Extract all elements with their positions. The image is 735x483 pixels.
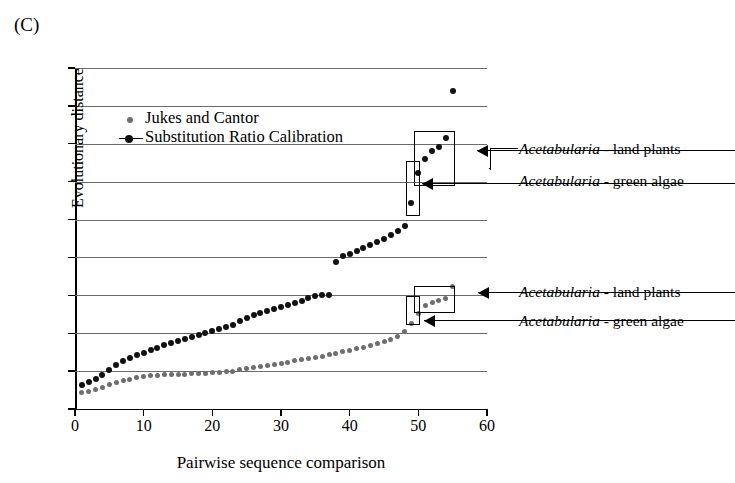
x-tick-label: 20	[192, 418, 232, 434]
data-point	[237, 318, 243, 324]
data-point	[272, 362, 277, 367]
arrow-upper-land-plants-head	[477, 145, 488, 157]
data-point	[450, 88, 456, 94]
data-point	[86, 389, 91, 394]
data-point	[141, 374, 146, 379]
data-point	[216, 326, 222, 332]
x-tick	[280, 409, 281, 416]
legend-label: Jukes and Cantor	[145, 108, 259, 127]
plot-area: 00.10.20.30.40.50.60.70.80.9 01020304050…	[75, 68, 487, 410]
data-point	[326, 292, 332, 298]
x-tick	[418, 409, 419, 416]
data-point	[279, 361, 284, 366]
y-axis-title: Evolutionary distance	[69, 68, 87, 208]
data-point	[134, 352, 140, 358]
annotation-upper-green-algae: Acetabularia - green algae	[519, 173, 684, 189]
x-tick	[212, 409, 213, 416]
arrow-lower-land-plants-head	[478, 287, 489, 299]
x-tick	[349, 409, 350, 416]
data-point	[168, 340, 174, 346]
data-point	[258, 364, 263, 369]
data-point	[382, 339, 387, 344]
data-point	[230, 369, 235, 374]
data-point	[203, 371, 208, 376]
data-point	[148, 347, 154, 353]
data-point	[202, 330, 208, 336]
data-point	[292, 358, 297, 363]
x-tick-label: 30	[261, 418, 301, 434]
data-point	[374, 239, 380, 245]
data-point	[244, 315, 250, 321]
data-point	[93, 376, 99, 382]
legend-marker-gray-dot-icon	[127, 117, 133, 123]
y-tick	[68, 333, 75, 334]
data-point	[347, 251, 353, 257]
data-point	[182, 372, 187, 377]
data-point	[162, 372, 167, 377]
data-point	[354, 248, 360, 254]
data-point	[327, 352, 332, 357]
data-point	[361, 345, 366, 350]
data-point	[305, 295, 311, 301]
data-point	[107, 382, 112, 387]
data-point	[306, 356, 311, 361]
data-point	[395, 334, 400, 339]
annotation-upper-land-plants: Acetabularia - land plants	[519, 141, 680, 157]
x-tick-label: 0	[55, 418, 95, 434]
data-point	[388, 232, 394, 238]
data-point	[333, 351, 338, 356]
data-point	[368, 343, 373, 348]
data-point	[114, 380, 119, 385]
data-point	[381, 236, 387, 242]
data-point	[99, 372, 105, 378]
data-point	[141, 350, 147, 356]
data-point	[161, 342, 167, 348]
data-point	[223, 324, 229, 330]
annotation-genus: Acetabularia	[519, 140, 600, 157]
data-point	[354, 346, 359, 351]
gridline	[75, 371, 487, 372]
data-point	[155, 373, 160, 378]
x-axis-title: Pairwise sequence comparison	[75, 453, 487, 473]
arrow-lower-land-plants-line	[478, 292, 735, 293]
data-point	[333, 259, 339, 265]
x-tick-label: 60	[467, 418, 507, 434]
annotation-rest: - green algae	[600, 172, 684, 189]
data-point	[278, 304, 284, 310]
data-point	[264, 308, 270, 314]
gridline	[75, 257, 487, 258]
data-point	[93, 387, 98, 392]
gridline	[75, 333, 487, 334]
data-point	[319, 292, 325, 298]
data-point	[375, 341, 380, 346]
data-point	[154, 345, 160, 351]
arrow-lower-green-algae-head	[424, 315, 435, 327]
data-point	[285, 302, 291, 308]
x-tick	[486, 409, 487, 416]
data-point	[189, 371, 194, 376]
data-point	[86, 379, 92, 385]
data-point	[127, 377, 132, 382]
data-point	[251, 312, 257, 318]
data-point	[175, 338, 181, 344]
highlight-box	[414, 131, 454, 186]
data-point	[402, 329, 407, 334]
gridline	[75, 106, 487, 107]
data-point	[134, 375, 139, 380]
data-point	[347, 348, 352, 353]
data-point	[320, 354, 325, 359]
data-point	[388, 337, 393, 342]
y-tick	[68, 257, 75, 258]
data-point	[340, 253, 346, 259]
data-point	[120, 358, 126, 364]
data-point	[217, 370, 222, 375]
x-tick	[74, 409, 75, 416]
data-point	[79, 390, 84, 395]
gridline	[75, 68, 487, 69]
data-point	[313, 355, 318, 360]
data-point	[106, 367, 112, 373]
data-point	[169, 372, 174, 377]
data-point	[395, 228, 401, 234]
legend-label: Substitution Ratio Calibration	[145, 127, 343, 146]
